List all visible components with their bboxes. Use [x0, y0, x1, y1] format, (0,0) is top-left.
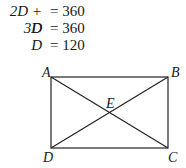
- vertex-label-b: B: [171, 65, 180, 80]
- vertex-label-d: D: [42, 150, 53, 165]
- vertex-label-c: C: [168, 150, 178, 165]
- vertex-label-a: A: [41, 65, 51, 80]
- vertex-label-e: E: [105, 96, 115, 111]
- rectangle-diagram: A B C D E: [0, 0, 186, 168]
